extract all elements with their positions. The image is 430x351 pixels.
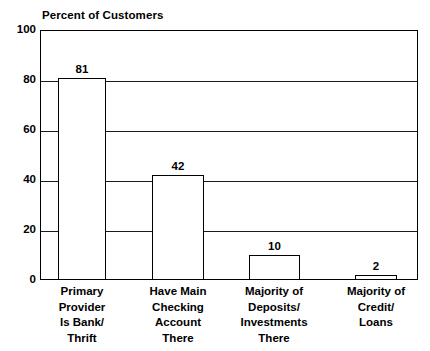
y-tick-label-80: 80 — [2, 74, 36, 85]
gridline-60 — [41, 131, 417, 132]
gridline-80 — [41, 81, 417, 82]
x-label-line: Credit/ — [328, 300, 424, 316]
y-tick-label-60: 60 — [2, 124, 36, 135]
y-tick-label-100: 100 — [2, 24, 36, 35]
x-label-line: Deposits/ — [216, 300, 332, 316]
x-axis-labels: PrimaryProviderIs Bank/Thrift Have MainC… — [40, 284, 418, 350]
x-label-line: Checking — [128, 300, 228, 316]
x-label-line: Is Bank/ — [32, 315, 132, 331]
gridline-40 — [41, 181, 417, 182]
x-label-line: Thrift — [32, 331, 132, 347]
x-label-line: Majority of — [216, 284, 332, 300]
x-label-line: Account — [128, 315, 228, 331]
x-label-2: Majority ofDeposits/InvestmentsThere — [216, 284, 332, 346]
x-label-1: Have MainCheckingAccountThere — [128, 284, 228, 346]
y-tick-label-0: 0 — [2, 274, 36, 285]
y-tick-label-40: 40 — [2, 174, 36, 185]
x-label-line: Investments — [216, 315, 332, 331]
x-label-line: There — [128, 331, 228, 347]
x-label-line: Have Main — [128, 284, 228, 300]
x-label-line: Majority of — [328, 284, 424, 300]
gridline-20 — [41, 231, 417, 232]
y-axis: 100 80 60 40 20 0 — [0, 30, 36, 280]
y-tick-label-20: 20 — [2, 224, 36, 235]
x-label-line: Loans — [328, 315, 424, 331]
x-label-3: Majority ofCredit/Loans — [328, 284, 424, 331]
x-label-line: Primary — [32, 284, 132, 300]
x-label-0: PrimaryProviderIs Bank/Thrift — [32, 284, 132, 346]
bar-chart: Percent of Customers 100 80 60 40 20 0 8… — [0, 0, 430, 351]
x-label-line: There — [216, 331, 332, 347]
x-label-line: Provider — [32, 300, 132, 316]
chart-title: Percent of Customers — [42, 8, 164, 22]
plot-area — [40, 30, 418, 280]
